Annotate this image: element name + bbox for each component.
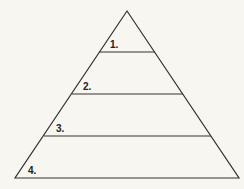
- pyramid-diagram: 1. 2. 3. 4.: [0, 0, 244, 189]
- level-4-label: 4.: [28, 165, 37, 176]
- level-2-label: 2.: [83, 81, 92, 92]
- level-3-label: 3.: [56, 123, 65, 134]
- level-1-label: 1.: [110, 39, 119, 50]
